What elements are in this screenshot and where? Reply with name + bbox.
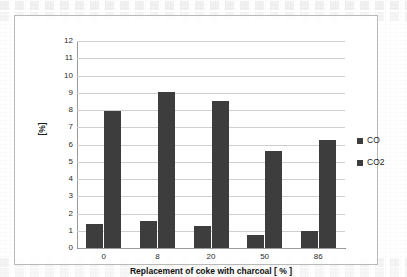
legend-item-CO[interactable]: CO: [357, 136, 384, 145]
bar-CO2-50[interactable]: [265, 151, 282, 248]
y-tick-label-0: 0: [47, 244, 73, 252]
x-tick-label-50: 50: [238, 252, 292, 262]
bar-group-8: [140, 41, 175, 248]
bar-CO-8[interactable]: [140, 221, 157, 248]
bar-CO2-20[interactable]: [212, 101, 229, 248]
y-tick-label-12: 12: [47, 37, 73, 45]
y-axis-tick-labels: 1211109876543210: [45, 41, 73, 248]
bar-CO-20[interactable]: [194, 226, 211, 248]
legend-item-CO2[interactable]: CO2: [357, 158, 384, 167]
chart-frame: 1211109876543210 [%] 08205086 Replacemen…: [14, 15, 378, 265]
bar-CO-50[interactable]: [247, 235, 264, 248]
y-tick-label-5: 5: [47, 158, 73, 166]
legend-swatch-icon-CO2: [357, 160, 363, 166]
x-tick-label-20: 20: [184, 252, 238, 262]
y-axis-title: [%]: [37, 122, 47, 135]
y-tick-label-6: 6: [47, 141, 73, 149]
y-tick-label-8: 8: [47, 106, 73, 114]
x-tick-label-86: 86: [291, 252, 345, 262]
bar-group-20: [194, 41, 229, 248]
bar-CO-0[interactable]: [86, 224, 103, 248]
bar-CO2-86[interactable]: [319, 140, 336, 248]
bar-group-0: [86, 41, 121, 248]
y-tick-label-2: 2: [47, 210, 73, 218]
y-tick-label-3: 3: [47, 192, 73, 200]
y-tick-label-11: 11: [47, 54, 73, 62]
bar-CO2-0[interactable]: [104, 111, 121, 248]
page-bleed-text-top: [0, 1, 407, 10]
bar-CO-86[interactable]: [301, 231, 318, 248]
bar-group-86: [301, 41, 336, 248]
y-tick-label-9: 9: [47, 89, 73, 97]
bar-group-50: [247, 41, 282, 248]
x-axis-tick-labels: 08205086: [77, 252, 345, 264]
gridline-0: [77, 248, 345, 249]
bars-layer: [77, 41, 345, 248]
y-tick-label-1: 1: [47, 227, 73, 235]
bar-CO2-8[interactable]: [158, 92, 175, 248]
x-tick-label-8: 8: [131, 252, 185, 262]
legend-label-CO: CO: [367, 136, 380, 145]
y-tick-label-4: 4: [47, 175, 73, 183]
chart-legend: COCO2: [357, 136, 384, 180]
x-axis-title: Replacement of coke with charcoal [ % ]: [77, 266, 345, 276]
y-tick-label-10: 10: [47, 72, 73, 80]
legend-swatch-icon-CO: [357, 138, 363, 144]
x-tick-label-0: 0: [77, 252, 131, 262]
legend-label-CO2: CO2: [367, 158, 384, 167]
y-tick-label-7: 7: [47, 123, 73, 131]
